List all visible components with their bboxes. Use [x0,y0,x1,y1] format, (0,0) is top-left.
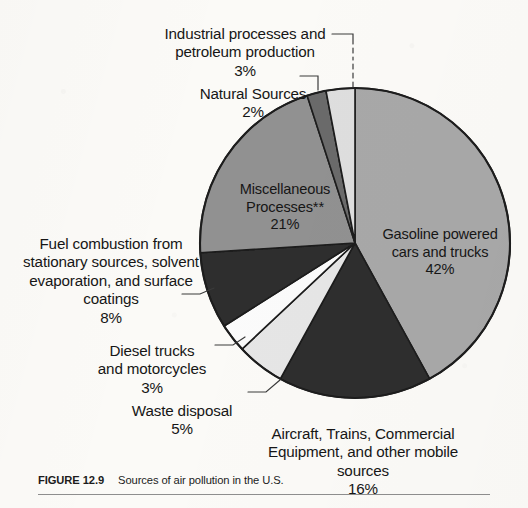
figure-caption-tag: FIGURE 12.9 [38,474,104,486]
slice-label-miscellaneous: Miscellaneous Processes** 21% [212,163,358,252]
slice-label-waste-disposal-name: Waste disposal [132,402,232,419]
slice-label-gasoline-name: Gasoline powered cars and trucks [382,226,497,260]
slice-label-natural-sources-name: Natural Sources [200,85,307,102]
slice-label-waste-disposal: Waste disposal 5% [108,383,256,457]
slice-label-gasoline: Gasoline powered cars and trucks 42% [364,208,516,297]
slice-label-aircraft: Aircraft, Trains, Commercial Equipment, … [248,406,478,508]
figure-caption-text: Sources of air pollution in the U.S. [118,474,284,486]
figure-12-9: Industrial processes and petroleum produ… [0,0,528,462]
slice-label-natural-sources: Natural Sources 2% [160,66,346,140]
slice-label-gasoline-pct: 42% [364,261,516,279]
slice-label-waste-disposal-pct: 5% [108,420,256,439]
slice-label-fuel-combustion-name: Fuel combustion from stationary sources,… [23,235,199,308]
caption-divider [38,494,490,495]
slice-label-industrial-name: Industrial processes and petroleum produ… [164,25,325,61]
slice-label-miscellaneous-pct: 21% [212,216,358,234]
slice-label-aircraft-name: Aircraft, Trains, Commercial Equipment, … [268,425,458,479]
slice-label-diesel-trucks-name: Diesel trucks and motorcycles [98,342,206,378]
figure-caption: FIGURE 12.9 Sources of air pollution in … [38,474,490,486]
slice-label-natural-sources-pct: 2% [160,103,346,122]
slice-label-miscellaneous-name: Miscellaneous Processes** [240,181,331,215]
